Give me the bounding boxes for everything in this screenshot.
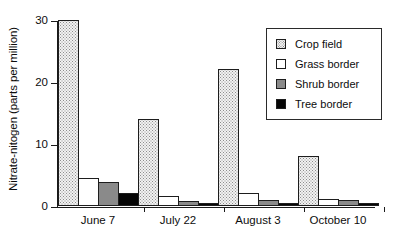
- y-tick-label: 30: [35, 14, 48, 27]
- bar-shrub: [98, 182, 119, 206]
- bar-grass: [238, 193, 259, 205]
- chart-legend: Crop fieldGrass borderShrub borderTree b…: [266, 28, 382, 120]
- y-tick-20: 20: [51, 83, 57, 84]
- x-axis-label: August 3: [214, 214, 302, 227]
- legend-item: Grass border: [267, 54, 381, 74]
- bar-tree: [118, 193, 139, 205]
- legend-label: Crop field: [295, 38, 342, 50]
- y-tick-label: 10: [35, 138, 48, 151]
- x-axis-label: July 22: [134, 214, 222, 227]
- dotted-pattern-swatch: [276, 39, 286, 49]
- legend-item: Tree border: [267, 94, 381, 114]
- bar-group: [138, 20, 218, 206]
- black-swatch: [276, 99, 286, 109]
- y-tick-30: 30: [51, 21, 57, 22]
- bar-crop: [58, 20, 79, 206]
- x-tick-separator: [224, 207, 225, 212]
- bar-tree: [278, 203, 299, 206]
- legend-label: Shrub border: [295, 78, 359, 90]
- x-axis-label: June 7: [54, 214, 142, 227]
- bar-grass: [318, 199, 339, 205]
- bar-tree: [198, 203, 219, 206]
- bar-grass: [78, 178, 99, 206]
- y-tick-label: 20: [35, 76, 48, 89]
- y-tick-0: 0: [51, 207, 57, 208]
- bar-shrub: [338, 200, 359, 206]
- bar-group: [58, 20, 138, 206]
- x-axis-line: [57, 207, 375, 208]
- x-tick-separator: [144, 207, 145, 212]
- y-axis-title: Nitrate-nitogen (parts per million): [7, 2, 19, 217]
- bar-crop: [218, 69, 239, 205]
- y-tick-10: 10: [51, 145, 57, 146]
- bar-group-bars: [138, 20, 218, 206]
- white-swatch: [276, 59, 286, 69]
- bar-crop: [298, 156, 319, 206]
- gray-swatch: [276, 79, 286, 89]
- x-tick-separator: [304, 207, 305, 212]
- legend-label: Tree border: [295, 98, 352, 110]
- legend-item: Shrub border: [267, 74, 381, 94]
- legend-item: Crop field: [267, 34, 381, 54]
- bar-tree: [358, 203, 379, 205]
- bar-shrub: [178, 201, 199, 205]
- legend-label: Grass border: [295, 58, 359, 70]
- bar-grass: [158, 196, 179, 205]
- bar-crop: [138, 119, 159, 206]
- bar-chart-figure: Nitrate-nitogen (parts per million) 0102…: [0, 0, 393, 251]
- y-tick-label: 0: [42, 200, 48, 213]
- bar-shrub: [258, 200, 279, 206]
- x-axis-label: October 10: [294, 214, 382, 227]
- x-tick-separator: [384, 207, 385, 212]
- bar-group-bars: [58, 20, 138, 206]
